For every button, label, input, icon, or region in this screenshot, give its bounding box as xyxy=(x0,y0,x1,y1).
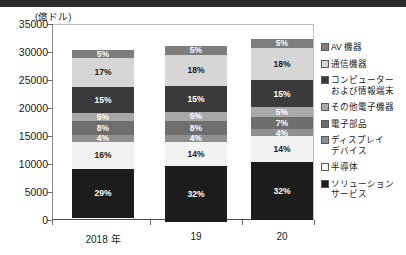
legend-item-label: ソリューション サービス xyxy=(331,179,394,200)
bar-segment: 4% xyxy=(72,135,134,142)
legend-color-swatch xyxy=(321,43,329,51)
bar-segment: 5% xyxy=(72,113,134,122)
legend-item-label: ディスプレイ デバイス xyxy=(331,135,384,156)
chart-legend: AV 機器通信機器コンピューター および情報端末その他電子機器電子部品ディスプレ… xyxy=(321,42,406,206)
legend-item-label: 通信機器 xyxy=(331,59,367,70)
bar-segment-value-label: 14% xyxy=(273,145,290,154)
bar-segment-value-label: 18% xyxy=(273,60,290,69)
legend-item-label: コンピューター および情報端末 xyxy=(331,75,394,96)
chart-page: (億ドル) 0500010000150002000025000300003500… xyxy=(0,0,406,255)
bar-segment-value-label: 8% xyxy=(190,124,202,133)
bar-segment: 29% xyxy=(72,169,134,218)
stacked-bar: 5%17%15%5%8%4%16%29% xyxy=(72,50,134,220)
bar-segment-value-label: 15% xyxy=(187,95,204,104)
bar-segment-value-label: 14% xyxy=(187,150,204,159)
bar-segment-value-label: 16% xyxy=(94,151,111,160)
bar-segment: 32% xyxy=(165,166,227,222)
bar-segment-value-label: 5% xyxy=(276,108,288,117)
bar-segment-value-label: 17% xyxy=(94,68,111,77)
legend-color-swatch xyxy=(321,120,329,128)
bar-segment: 4% xyxy=(165,135,227,142)
bar-segment-value-label: 5% xyxy=(190,112,202,121)
bar-segment: 16% xyxy=(72,142,134,169)
legend-item[interactable]: AV 機器 xyxy=(321,42,406,53)
bar-segment-value-label: 29% xyxy=(94,189,111,198)
legend-color-swatch xyxy=(321,76,329,84)
bar-segment-value-label: 32% xyxy=(273,187,290,196)
bar-segment-value-label: 4% xyxy=(190,135,202,142)
bar-segment-value-label: 8% xyxy=(97,124,109,133)
legend-item[interactable]: 通信機器 xyxy=(321,59,406,70)
bar-segment: 5% xyxy=(251,39,313,48)
legend-item-label: その他電子機器 xyxy=(331,102,394,113)
bar-segment: 15% xyxy=(165,86,227,112)
bar-segment-value-label: 5% xyxy=(97,113,109,122)
bar-segment-value-label: 5% xyxy=(276,39,288,48)
bar-segment-value-label: 15% xyxy=(94,96,111,105)
bar-segment: 5% xyxy=(165,112,227,121)
legend-item[interactable]: コンピューター および情報端末 xyxy=(321,75,406,96)
bar-segment-value-label: 7% xyxy=(276,119,288,128)
bar-segment: 4% xyxy=(251,129,313,136)
bar-segment: 5% xyxy=(251,107,313,116)
bar-segment: 5% xyxy=(165,46,227,55)
bar-segment: 14% xyxy=(165,142,227,166)
legend-item[interactable]: ソリューション サービス xyxy=(321,179,406,200)
bar-segment: 8% xyxy=(72,121,134,135)
legend-item-label: AV 機器 xyxy=(331,42,362,53)
bar-segment-value-label: 4% xyxy=(97,135,109,142)
bar-segment: 7% xyxy=(251,117,313,130)
stacked-bar: 5%18%15%5%7%4%14%32% xyxy=(251,39,313,220)
bar-segment: 32% xyxy=(251,162,313,220)
bar-segment: 18% xyxy=(251,48,313,81)
bar-segment-value-label: 18% xyxy=(187,66,204,75)
legend-item[interactable]: 半導体 xyxy=(321,162,406,173)
legend-color-swatch xyxy=(321,103,329,111)
bar-segment: 8% xyxy=(165,121,227,135)
bar-segment: 5% xyxy=(72,50,134,59)
legend-item[interactable]: ディスプレイ デバイス xyxy=(321,135,406,156)
legend-color-swatch xyxy=(321,163,329,171)
legend-item[interactable]: その他電子機器 xyxy=(321,102,406,113)
bar-segment: 18% xyxy=(165,55,227,86)
bar-segment-value-label: 5% xyxy=(97,50,109,59)
stacked-bar: 5%18%15%5%8%4%14%32% xyxy=(165,46,227,220)
bar-segment-value-label: 5% xyxy=(190,46,202,55)
legend-item-label: 半導体 xyxy=(331,162,358,173)
bar-segment-value-label: 32% xyxy=(187,190,204,199)
legend-color-swatch xyxy=(321,60,329,68)
legend-color-swatch xyxy=(321,180,329,188)
bar-segment: 17% xyxy=(72,58,134,87)
bar-segment-value-label: 15% xyxy=(273,90,290,99)
bar-segment: 14% xyxy=(251,136,313,161)
legend-item-label: 電子部品 xyxy=(331,119,367,130)
legend-color-swatch xyxy=(321,136,329,144)
bar-segment: 15% xyxy=(72,87,134,113)
bar-segment-value-label: 4% xyxy=(276,129,288,136)
legend-item[interactable]: 電子部品 xyxy=(321,119,406,130)
bar-segment: 15% xyxy=(251,80,313,107)
